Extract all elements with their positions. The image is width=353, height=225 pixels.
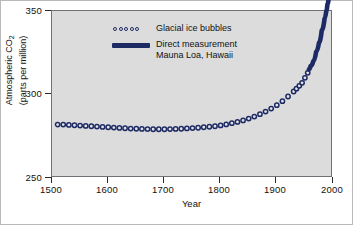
- legend-item-direct-measurement: Direct measurement Mauna Loa, Hawaii: [112, 39, 237, 61]
- plot-area: Glacial ice bubbles Direct measurement M…: [51, 10, 332, 177]
- legend-label-glacial-ice-bubbles: Glacial ice bubbles: [156, 23, 232, 34]
- legend-label-direct-measurement-line1: Direct measurement: [156, 39, 237, 49]
- legend-label-direct-measurement-line2: Mauna Loa, Hawaii: [156, 50, 237, 61]
- x-tick-label-1800: 1800: [199, 184, 239, 195]
- series-glacial-ice-bubbles: [55, 71, 309, 132]
- x-tick-label-1900: 1900: [255, 184, 295, 195]
- x-tick-label-1700: 1700: [143, 184, 183, 195]
- y-axis-title-subscript: 2: [8, 35, 15, 39]
- legend-item-glacial-ice-bubbles: Glacial ice bubbles: [112, 23, 237, 34]
- x-tick-label-2000: 2000: [312, 184, 352, 195]
- legend-label-direct-measurement: Direct measurement Mauna Loa, Hawaii: [156, 39, 237, 61]
- y-tick-label-350: 350: [26, 5, 42, 16]
- y-tick-label-250: 250: [26, 172, 42, 183]
- co2-chart-figure: Atmospheric CO2 (parts per million) 250 …: [0, 0, 353, 225]
- y-axis-title-line2: (parts per million): [18, 10, 29, 130]
- x-tick-label-1600: 1600: [87, 184, 127, 195]
- legend-marker-open-circles: [112, 23, 156, 34]
- y-axis-title-line1: Atmospheric CO: [4, 39, 14, 105]
- y-axis-title: Atmospheric CO2 (parts per million): [4, 10, 29, 130]
- x-tick-label-1500: 1500: [31, 184, 71, 195]
- series-direct-measurement: [309, 0, 329, 69]
- x-axis-title: Year: [51, 198, 332, 209]
- y-tick-label-300: 300: [26, 88, 42, 99]
- legend-marker-solid-line: [112, 39, 156, 50]
- chart-legend: Glacial ice bubbles Direct measurement M…: [112, 23, 237, 66]
